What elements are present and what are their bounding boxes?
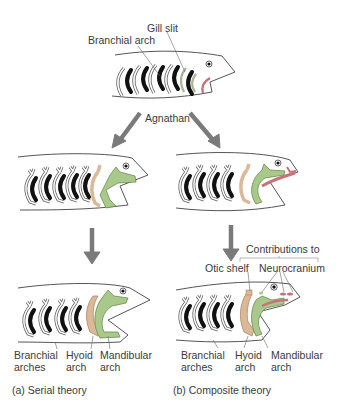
neurocranium-label: Neurocranium [259,262,325,274]
serial-branchial-label: Branchial arches [14,349,58,373]
serial-branchial-line2: arches [14,361,58,373]
serial-mandibular-line1: Mandibular [100,349,152,361]
serial-mandibular-line2: arch [100,361,152,373]
arrows-down [84,225,239,264]
branchial-arch-leader [138,46,160,76]
serial-mandibular-label: Mandibular arch [100,349,152,373]
composite-hyoid-line1: Hyoid [235,349,262,361]
composite-middle-fish [176,153,298,211]
composite-hyoid-label: Hyoid arch [235,349,262,373]
composite-branchial-label: Branchial arches [181,349,225,373]
serial-middle-fish [18,154,148,210]
diagram-canvas [0,0,342,409]
otic-shelf-label: Otic shelf [205,262,249,274]
contributions-label: Contributions to [246,243,320,255]
composite-mandibular-line2: arch [271,361,323,373]
composite-hyoid-line2: arch [235,361,262,373]
composite-caption: (b) Composite theory [173,384,271,396]
serial-bottom-fish [18,284,150,350]
serial-caption: (a) Serial theory [12,384,87,396]
branchial-arch-label: Branchial arch [88,34,155,46]
serial-branchial-line1: Branchial [14,349,58,361]
agnathan-label: Agnathan [145,112,190,124]
composite-branchial-line2: arches [181,361,225,373]
composite-branchial-line1: Branchial [181,349,225,361]
serial-hyoid-label: Hyoid arch [66,349,93,373]
serial-hyoid-line1: Hyoid [66,349,93,361]
gill-slit-label: Gill slit [147,22,178,34]
composite-mandibular-label: Mandibular arch [271,349,323,373]
serial-hyoid-line2: arch [66,361,93,373]
composite-mandibular-line1: Mandibular [271,349,323,361]
